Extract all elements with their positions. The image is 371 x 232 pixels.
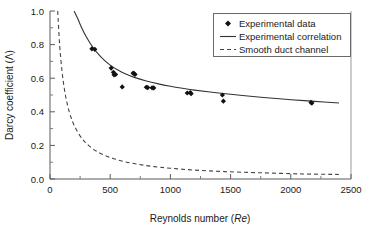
data-point-marker: [221, 99, 226, 104]
x-tick-label: 0: [47, 184, 52, 195]
x-axis-title: Reynolds number (Re): [150, 213, 251, 224]
legend-label-0: Experimental data: [239, 18, 316, 29]
y-tick-label: 0.2: [31, 140, 44, 151]
x-tick-label: 500: [102, 184, 118, 195]
y-tick-label: 0.0: [31, 174, 44, 185]
data-point-marker: [109, 66, 114, 71]
x-tick-label: 1500: [220, 184, 241, 195]
legend-item-experimental-data: Experimental data: [225, 18, 316, 29]
y-tick-label: 0.6: [31, 73, 44, 84]
legend-item-experimental-correlation: Experimental correlation: [220, 31, 341, 42]
legend-label-1: Experimental correlation: [239, 31, 341, 42]
legend: Experimental data Experimental correlati…: [214, 14, 351, 57]
y-tick-label: 1.0: [31, 6, 44, 17]
legend-label-2: Smooth duct channel: [239, 44, 328, 55]
y-tick-label: 0.4: [31, 106, 44, 117]
x-tick-label: 1000: [160, 184, 181, 195]
x-tick-label: 2000: [280, 184, 301, 195]
data-point-marker: [120, 84, 125, 89]
y-axis-tick-labels: 0.00.20.40.60.81.0: [31, 6, 44, 185]
x-tick-label: 2500: [340, 184, 361, 195]
y-tick-label: 0.8: [31, 39, 44, 50]
figure: 05001000150020002500 0.00.20.40.60.81.0 …: [0, 0, 371, 232]
x-axis-tick-labels: 05001000150020002500: [47, 184, 361, 195]
y-axis-title: Darcy coefficient (Λ): [4, 50, 15, 140]
chart-canvas: 05001000150020002500 0.00.20.40.60.81.0 …: [0, 0, 371, 232]
